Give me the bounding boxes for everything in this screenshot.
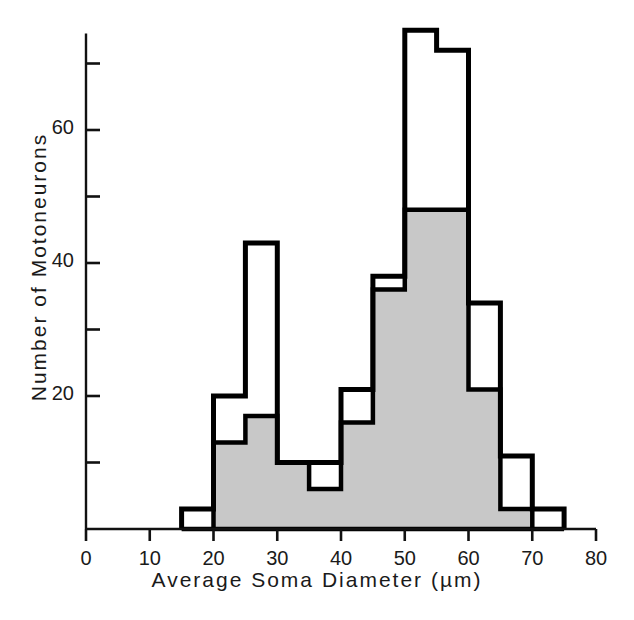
x-tick-label: 50 — [380, 547, 430, 570]
x-tick-label: 0 — [61, 547, 111, 570]
y-axis-label: Number of Motoneurons — [27, 133, 50, 401]
x-tick-label: 20 — [189, 547, 239, 570]
x-tick-label: 40 — [316, 547, 366, 570]
x-tick-label: 60 — [444, 547, 494, 570]
chart-plot-area — [0, 0, 634, 620]
x-tick-label: 70 — [507, 547, 557, 570]
x-tick-label: 10 — [125, 547, 175, 570]
x-tick-label: 80 — [571, 547, 621, 570]
x-tick-label: 30 — [252, 547, 302, 570]
x-axis-label: Average Soma Diameter (µm) — [0, 568, 634, 592]
histogram-figure: 01020304050607080204060 Average Soma Dia… — [0, 0, 634, 620]
y-axis-label-wrap: Number of Motoneurons — [27, 57, 57, 477]
